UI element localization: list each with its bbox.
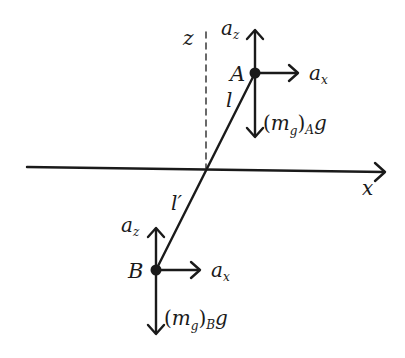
point-a-dot — [250, 68, 261, 79]
point-b-az-label: az — [121, 213, 140, 239]
point-a-label: A — [228, 62, 245, 86]
rod-lower-label: l′ — [171, 191, 182, 215]
point-b-ax-label: ax — [211, 258, 230, 284]
z-axis-label: z — [182, 26, 194, 50]
force-diagram: x z l l′ az (mg)Ag ax A az — [0, 0, 405, 358]
point-a-az-label: az — [221, 16, 240, 42]
point-a-weight-text: (mg)Ag — [263, 111, 327, 138]
point-b-dot — [151, 265, 162, 276]
point-b-label: B — [127, 259, 143, 283]
z-axis: z — [182, 26, 206, 168]
point-a-ax-label: ax — [309, 61, 328, 87]
x-axis-label: x — [362, 176, 373, 200]
point-b-weight-text: (mg)Bg — [164, 306, 228, 333]
point-a-group: az (mg)Ag ax A — [221, 16, 328, 138]
rod-upper-label: l — [226, 88, 232, 112]
